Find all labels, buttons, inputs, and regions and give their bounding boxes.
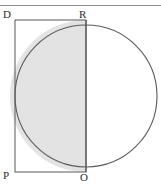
shaded-semicircle-region bbox=[10, 20, 86, 172]
vertex-label-r: R bbox=[79, 9, 86, 20]
geometry-figure: D R P O bbox=[0, 0, 161, 192]
vertex-label-p: P bbox=[3, 170, 9, 181]
figure-canvas bbox=[0, 0, 161, 192]
vertex-label-o: O bbox=[80, 172, 88, 183]
vertex-label-d: D bbox=[3, 9, 11, 20]
